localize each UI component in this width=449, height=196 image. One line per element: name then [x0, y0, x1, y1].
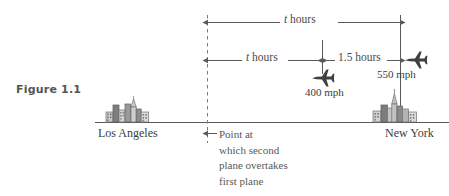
first-segment-time-label: t hours: [244, 51, 280, 65]
new-york-skyline-icon: [373, 89, 417, 122]
new-york-label: New York: [385, 126, 434, 140]
total-time-unit: hours: [287, 13, 315, 25]
total-time-label: t hours: [282, 13, 318, 27]
overtake-line-4: first plane: [219, 174, 288, 190]
overtake-annotation: Point at which second plane overtakes fi…: [219, 127, 288, 189]
overtake-line-3: plane overtakes: [219, 158, 288, 174]
los-angeles-label: Los Angeles: [98, 126, 158, 140]
first-segment-time-unit: hours: [249, 51, 277, 63]
airplane-icon-400: [312, 70, 334, 87]
los-angeles-skyline-icon: [106, 96, 149, 122]
figure-1-1: Figure 1.1 t hours t hours 1.5 hours 400…: [0, 0, 449, 196]
overtake-line-2: which second: [219, 143, 288, 159]
figure-caption: Figure 1.1: [16, 84, 81, 97]
second-plane-speed-label: 550 mph: [377, 68, 416, 81]
overtake-line-1: Point at: [219, 127, 288, 143]
second-segment-time-label: 1.5 hours: [336, 51, 383, 65]
first-plane-speed-label: 400 mph: [305, 86, 344, 99]
airplane-icon-550: [405, 52, 427, 69]
